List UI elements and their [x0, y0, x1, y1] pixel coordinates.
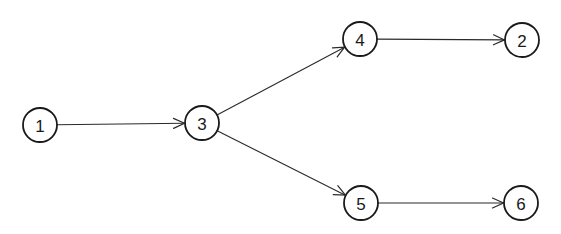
arrowhead-icon	[332, 47, 344, 57]
node-label: 4	[355, 31, 364, 50]
edges-layer	[57, 35, 505, 208]
node-4: 4	[343, 22, 377, 56]
directed-graph-diagram: 134256	[0, 0, 561, 234]
edge-1-to-3	[57, 118, 185, 128]
edge-5-to-6	[378, 198, 504, 208]
edge-line	[57, 123, 185, 125]
node-label: 6	[516, 195, 525, 214]
node-5: 5	[344, 186, 378, 220]
node-label: 1	[35, 117, 44, 136]
node-6: 6	[504, 186, 538, 220]
edge-4-to-2	[377, 35, 505, 45]
edge-3-to-5	[217, 131, 345, 195]
node-label: 2	[517, 32, 526, 51]
nodes-layer: 134256	[23, 22, 539, 220]
node-2: 2	[505, 23, 539, 57]
edge-line	[217, 131, 345, 195]
edge-line	[217, 47, 345, 115]
edge-line	[377, 39, 505, 40]
edge-3-to-4	[217, 47, 345, 115]
node-label: 5	[356, 195, 365, 214]
node-label: 3	[197, 115, 206, 134]
node-1: 1	[23, 108, 57, 142]
node-3: 3	[185, 106, 219, 140]
